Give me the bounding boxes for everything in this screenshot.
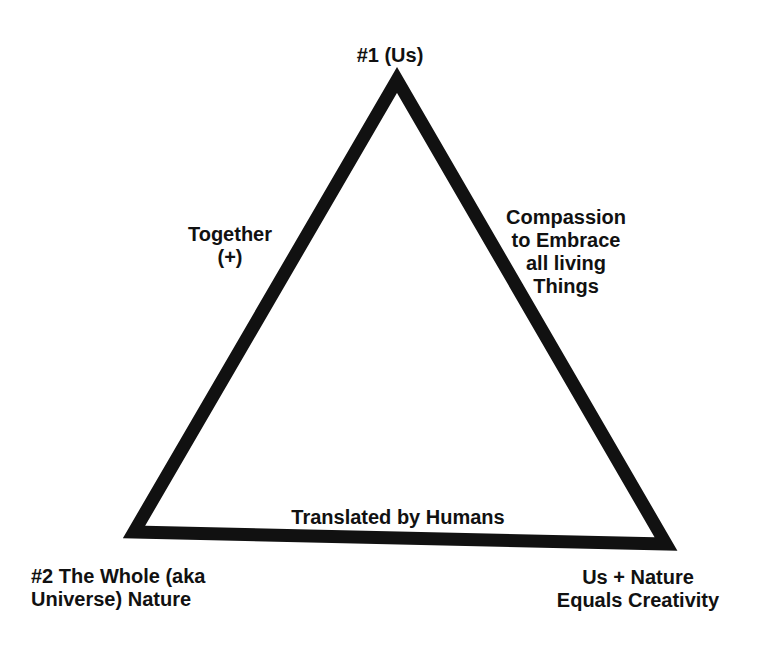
edge-label-right: Compassion to Embrace all living Things	[493, 206, 639, 298]
edge-label-right-line: Compassion	[493, 206, 639, 229]
vertex-label-bottom-left: #2 The Whole (aka Universe) Nature	[31, 565, 291, 611]
edge-label-right-line: to Embrace	[493, 229, 639, 252]
vertex-label-bottom-left-line: Universe) Nature	[31, 588, 291, 611]
triangle-diagram: #1 (Us) Together (+) Compassion to Embra…	[0, 0, 784, 667]
edge-label-bottom: Translated by Humans	[258, 506, 538, 529]
vertex-label-bottom-left-line: #2 The Whole (aka	[31, 565, 291, 588]
edge-label-bottom-line: Translated by Humans	[258, 506, 538, 529]
vertex-label-top: #1 (Us)	[340, 44, 440, 67]
edge-label-right-line: Things	[493, 275, 639, 298]
edge-label-left: Together (+)	[172, 223, 288, 269]
edge-label-left-line: (+)	[172, 246, 288, 269]
triangle-outline	[134, 80, 666, 544]
vertex-label-bottom-right-line: Us + Nature	[548, 566, 728, 589]
edge-label-right-line: all living	[493, 252, 639, 275]
vertex-label-bottom-right-line: Equals Creativity	[548, 589, 728, 612]
vertex-label-bottom-right: Us + Nature Equals Creativity	[548, 566, 728, 612]
edge-label-left-line: Together	[172, 223, 288, 246]
vertex-label-top-line: #1 (Us)	[340, 44, 440, 67]
